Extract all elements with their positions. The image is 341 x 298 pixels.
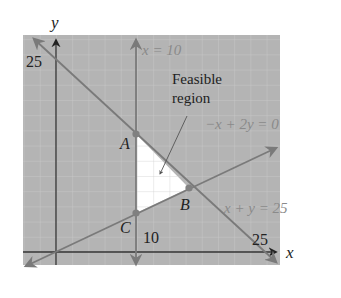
point-c [132, 209, 139, 216]
label-point-a: A [119, 135, 130, 152]
label-x-equals-10: x = 10 [141, 42, 182, 58]
point-a [132, 130, 139, 137]
x-tick-10: 10 [143, 229, 159, 246]
feasible-label-line1: Feasible [172, 71, 222, 87]
y-axis-label: y [49, 13, 59, 32]
x-tick-25: 25 [252, 231, 268, 248]
feasible-label-line2: region [172, 90, 211, 106]
x-axis-label: x [285, 243, 294, 262]
point-b [185, 184, 192, 191]
feasible-region-diagram: y x 25 25 10 A B C Feasible region x = 1… [0, 0, 341, 298]
y-tick-25: 25 [26, 53, 42, 70]
label-neg-x-plus-2y: −x + 2y = 0 [205, 116, 279, 132]
label-point-c: C [120, 219, 131, 236]
label-x-plus-y: x + y = 25 [223, 200, 288, 216]
label-point-b: B [180, 196, 190, 213]
